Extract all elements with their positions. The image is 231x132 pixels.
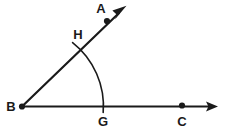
geometry-diagram: A B C G H: [0, 0, 231, 132]
point-a-dot: [104, 18, 110, 24]
point-c-label: C: [177, 114, 187, 129]
point-h-label: H: [73, 27, 82, 42]
point-g-label: G: [98, 114, 108, 129]
point-b-label: B: [6, 99, 15, 114]
point-b-dot: [19, 103, 25, 109]
point-c-dot: [179, 102, 185, 108]
ray-ba-line: [22, 13, 119, 107]
point-a-label: A: [96, 1, 106, 16]
